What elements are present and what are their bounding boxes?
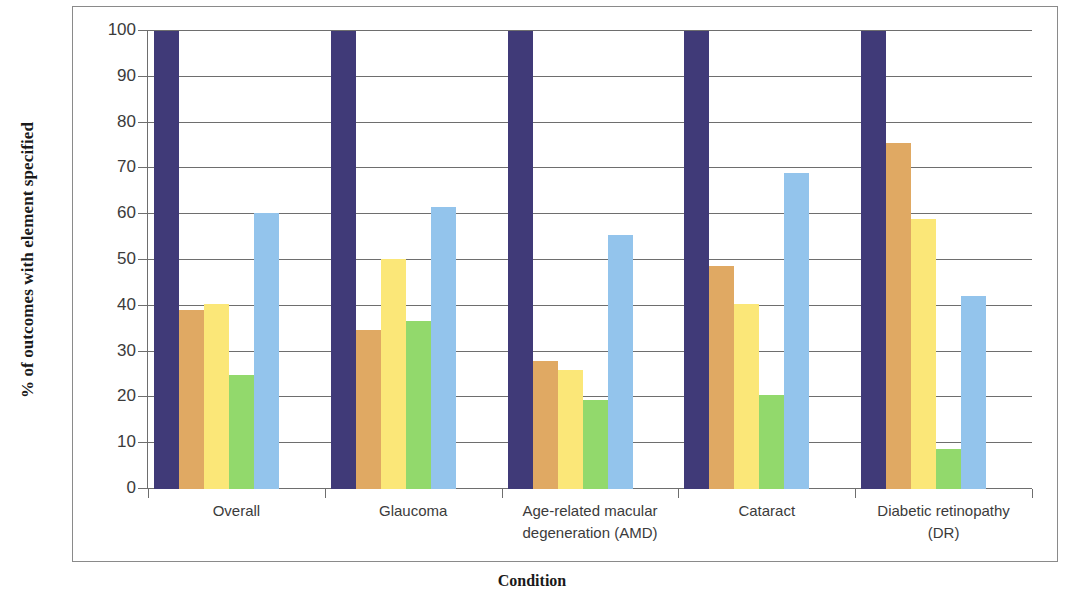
- y-axis-tick-mark: [138, 351, 148, 352]
- y-axis-tick-label: 100: [78, 20, 136, 40]
- bar[interactable]: [734, 304, 759, 489]
- y-axis-tick-label: 10: [78, 432, 136, 452]
- bar[interactable]: [431, 207, 456, 489]
- bar-group: [502, 30, 679, 489]
- x-axis-tick-mark: [855, 489, 856, 498]
- y-axis-tick-mark: [138, 396, 148, 397]
- bar[interactable]: [381, 259, 406, 489]
- x-axis-category-label-line: (DR): [859, 522, 1028, 544]
- y-axis-tick-label: 60: [78, 203, 136, 223]
- y-axis-tick-mark: [138, 259, 148, 260]
- bar[interactable]: [406, 321, 431, 489]
- bar-group: [325, 30, 502, 489]
- x-axis-tick-mark: [678, 489, 679, 498]
- bar[interactable]: [154, 31, 179, 489]
- bar[interactable]: [533, 361, 558, 489]
- x-axis-category-label-line: Glaucoma: [329, 500, 498, 522]
- bar[interactable]: [558, 370, 583, 489]
- y-axis-tick-labels: 1009080706050403020100: [76, 0, 136, 611]
- x-axis-tick-mark: [502, 489, 503, 498]
- x-axis-category-label-line: degeneration (AMD): [506, 522, 675, 544]
- bar[interactable]: [709, 266, 734, 490]
- y-axis-tick-mark: [138, 122, 148, 123]
- bar[interactable]: [204, 304, 229, 489]
- x-axis-category-label: Diabetic retinopathy(DR): [855, 500, 1032, 544]
- bar-groups: [148, 30, 1032, 489]
- bar[interactable]: [961, 296, 986, 489]
- bar[interactable]: [861, 31, 886, 489]
- y-axis-title: % of outcomes with element specified: [0, 0, 56, 520]
- bar[interactable]: [684, 31, 709, 489]
- x-axis-category-label-line: Cataract: [682, 500, 851, 522]
- bar[interactable]: [356, 330, 381, 489]
- bar[interactable]: [886, 143, 911, 489]
- x-axis-category-label: Overall: [148, 500, 325, 544]
- y-axis-tick-label: 0: [78, 478, 136, 498]
- y-axis-tick-label: 70: [78, 157, 136, 177]
- bar[interactable]: [759, 395, 784, 489]
- x-axis-category-label-line: Age-related macular: [506, 500, 675, 522]
- x-axis-tick-mark: [1032, 489, 1033, 498]
- bar[interactable]: [179, 310, 204, 489]
- x-axis-category-label: Cataract: [678, 500, 855, 544]
- bar-group: [678, 30, 855, 489]
- y-axis-tick-mark: [138, 213, 148, 214]
- bar[interactable]: [911, 219, 936, 489]
- bar[interactable]: [784, 173, 809, 489]
- y-axis-tick-mark: [138, 30, 148, 31]
- bar[interactable]: [583, 400, 608, 489]
- bar[interactable]: [608, 235, 633, 489]
- x-axis-tick-mark: [325, 489, 326, 498]
- bar[interactable]: [508, 31, 533, 489]
- x-axis-category-label-line: Overall: [152, 500, 321, 522]
- x-axis-category-label-line: Diabetic retinopathy: [859, 500, 1028, 522]
- y-axis-tick-mark: [138, 167, 148, 168]
- bar-group: [148, 30, 325, 489]
- y-axis-tick-label: 50: [78, 249, 136, 269]
- y-axis-tick-label: 30: [78, 341, 136, 361]
- y-axis-tick-mark: [138, 305, 148, 306]
- x-axis-tick-mark: [148, 489, 149, 498]
- x-axis-category-labels: OverallGlaucomaAge-related maculardegene…: [148, 500, 1032, 544]
- y-axis-tick-mark: [138, 442, 148, 443]
- bar[interactable]: [331, 31, 356, 489]
- y-axis-tick-label: 90: [78, 66, 136, 86]
- y-axis-tick-mark: [138, 76, 148, 77]
- bar[interactable]: [229, 375, 254, 489]
- bar-group: [855, 30, 1032, 489]
- y-axis-title-text: % of outcomes with element specified: [18, 122, 38, 398]
- y-axis-tick-mark: [138, 488, 148, 489]
- bar[interactable]: [254, 213, 279, 489]
- x-axis-category-label: Age-related maculardegeneration (AMD): [502, 500, 679, 544]
- bar[interactable]: [936, 449, 961, 489]
- y-axis-tick-label: 80: [78, 112, 136, 132]
- y-axis-tick-label: 20: [78, 386, 136, 406]
- x-axis-category-label: Glaucoma: [325, 500, 502, 544]
- x-axis-tick-marks: [148, 489, 1032, 498]
- x-axis-title: Condition: [72, 572, 992, 590]
- y-axis-tick-label: 40: [78, 295, 136, 315]
